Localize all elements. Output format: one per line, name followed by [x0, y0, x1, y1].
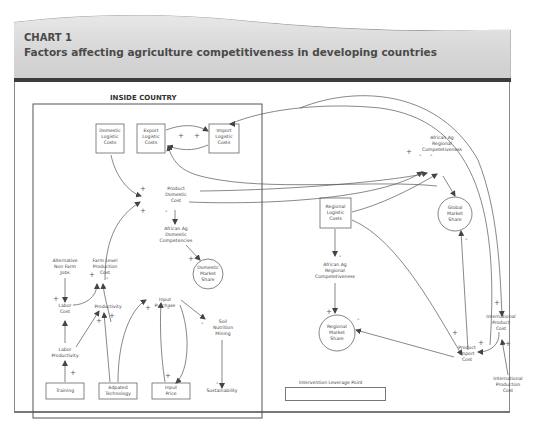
- node-international-product-cost: International Product Cost: [480, 314, 522, 332]
- sign-minus: -: [339, 253, 342, 260]
- sign-plus: +: [178, 133, 184, 140]
- node-domestic-logistic-costs: Domestic Logistic Costs: [96, 128, 124, 146]
- node-productivity: Productivity: [90, 304, 126, 310]
- node-international-production-cost: International Production Cost: [486, 376, 530, 394]
- sign-plus: +: [188, 256, 194, 263]
- node-african-ag-domestic-competencies: African Ag Domestic Competencies: [155, 226, 197, 244]
- sign-plus: +: [70, 370, 76, 377]
- node-african-ag-regional-competetiveness-mid: African Ag Regional Competetiveness: [311, 262, 359, 280]
- sign-plus: +: [140, 186, 146, 193]
- sign-plus: +: [140, 208, 146, 215]
- node-input-purchase: Input Purchase: [150, 297, 180, 309]
- node-training: Training: [46, 388, 84, 394]
- node-export-logistic-costs: Export Logistic Costs: [137, 128, 165, 146]
- sign-plus: +: [53, 296, 59, 303]
- leverage-point-label: Intervention Leverage Point: [299, 380, 363, 385]
- sign-plus: +: [165, 373, 171, 380]
- node-import-logistic-costs: Import Logistic Costs: [209, 128, 239, 146]
- sign-plus: +: [194, 133, 200, 140]
- leverage-point-swatch: [285, 387, 386, 401]
- sign-plus: +: [145, 305, 151, 312]
- sign-plus: +: [96, 318, 102, 325]
- sign-minus: -: [216, 380, 219, 387]
- node-input-price: Input Price: [152, 385, 190, 397]
- node-african-ag-regional-competetiveness-top: African Ag Regional Competetiveness: [418, 135, 466, 153]
- sign-minus: -: [201, 320, 204, 327]
- node-domestic-market-share: Domestic Market Share: [193, 265, 223, 283]
- sign-plus: +: [326, 309, 332, 316]
- node-global-market-share: Global Market Share: [440, 205, 470, 223]
- sign-minus: -: [167, 305, 170, 312]
- sign-minus: -: [357, 316, 360, 323]
- node-labor-productivity: Labor Productivity: [48, 347, 82, 359]
- node-adapted-technology: Adpated Technology: [99, 385, 137, 397]
- sign-minus: -: [419, 152, 422, 159]
- node-sustainability: Sustainability: [204, 388, 240, 394]
- node-regional-logistic-costs: Regional Logistic Costs: [320, 204, 351, 222]
- node-soil-nutrition-mining: Soil Nutrition Mining: [208, 319, 238, 337]
- sign-plus: +: [505, 341, 511, 348]
- sign-plus: +: [109, 313, 115, 320]
- sign-minus: -: [430, 152, 433, 159]
- sign-plus: +: [478, 340, 484, 347]
- sign-plus: +: [494, 300, 500, 307]
- sign-plus: +: [89, 272, 95, 279]
- node-labor-cost: Labor Cost: [52, 303, 78, 315]
- inside-country-title: INSIDE COUNTRY: [110, 94, 177, 102]
- sign-minus: -: [106, 275, 109, 282]
- node-regional-market-share: Regional Market Share: [322, 324, 352, 342]
- node-product-domestic-cost: Product Domestic Cost: [160, 186, 192, 204]
- node-product-import-cost: Product Import Cost: [452, 345, 482, 363]
- sign-plus: +: [452, 330, 458, 337]
- sign-minus: -: [165, 208, 168, 215]
- sign-minus: -: [465, 236, 468, 243]
- causal-loop-diagram: [0, 0, 555, 438]
- node-alternative-non-farm-jobs: Alternative Non Farm Jobs: [48, 258, 82, 276]
- sign-plus: +: [406, 149, 412, 156]
